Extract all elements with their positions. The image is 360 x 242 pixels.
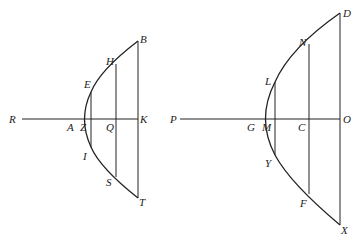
label-P: P [169, 113, 177, 125]
label-S: S [106, 176, 112, 188]
label-I: I [82, 150, 88, 162]
label-B: B [140, 33, 147, 45]
label-L: L [264, 75, 271, 87]
label-M: M [261, 121, 272, 133]
label-Z: Z [80, 121, 87, 133]
label-E: E [83, 78, 91, 90]
label-X: X [340, 224, 349, 236]
label-A: A [66, 121, 74, 133]
label-C: C [298, 121, 306, 133]
label-R: R [8, 113, 16, 125]
label-K: K [139, 113, 148, 125]
right-figure: P G M C O D N L Y F X [169, 7, 351, 236]
label-Y: Y [265, 157, 273, 169]
geometry-diagram: R A Z Q K B H E I S T P G M C O D N L Y … [0, 0, 360, 242]
left-figure: R A Z Q K B H E I S T [8, 33, 148, 208]
label-N: N [298, 36, 307, 48]
label-D: D [342, 7, 351, 19]
label-O: O [343, 113, 351, 125]
label-H: H [105, 55, 115, 67]
label-Q: Q [106, 121, 114, 133]
label-F: F [299, 197, 307, 209]
label-T: T [139, 196, 146, 208]
label-G: G [247, 121, 255, 133]
